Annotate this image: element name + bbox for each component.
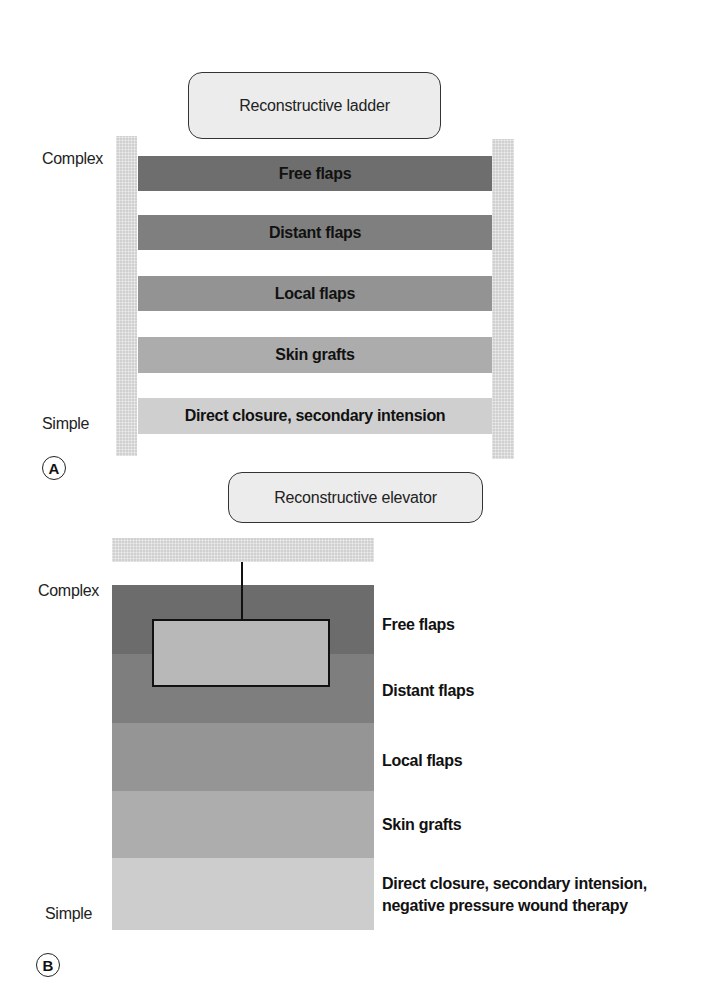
panel-a-label: A (42, 456, 66, 480)
elevator-level-direct-closure (112, 858, 374, 930)
ladder-rung-distant-flaps: Distant flaps (138, 215, 492, 250)
elevator-level-local-flaps (112, 723, 374, 791)
elevator-title: Reconstructive elevator (228, 472, 483, 523)
ladder-rung-skin-grafts: Skin grafts (138, 337, 492, 373)
elevator-complex-label: Complex (38, 582, 99, 600)
rung-label: Free flaps (279, 165, 352, 183)
ladder-rung-direct-closure: Direct closure, secondary intension (138, 398, 492, 434)
elevator-level-skin-grafts (112, 791, 374, 858)
ladder-right-rail (492, 139, 514, 459)
ladder-simple-label: Simple (42, 415, 89, 433)
elevator-label-distant-flaps: Distant flaps (382, 680, 474, 702)
elevator-cable (241, 562, 243, 620)
label-line-2: negative pressure wound therapy (382, 895, 647, 917)
elevator-simple-label: Simple (45, 905, 92, 923)
ladder-complex-label: Complex (42, 150, 103, 168)
elevator-label-local-flaps: Local flaps (382, 750, 462, 772)
elevator-label-skin-grafts: Skin grafts (382, 814, 461, 836)
rung-label: Skin grafts (275, 346, 354, 364)
ladder-rung-free-flaps: Free flaps (138, 156, 492, 191)
rung-label: Direct closure, secondary intension (185, 407, 446, 425)
elevator-label-direct-closure: Direct closure, secondary intension, neg… (382, 873, 647, 917)
ladder-left-rail (116, 136, 137, 456)
ladder-title: Reconstructive ladder (188, 72, 441, 139)
label-line-1: Direct closure, secondary intension, (382, 873, 647, 895)
rung-label: Distant flaps (269, 224, 361, 242)
ladder-rung-local-flaps: Local flaps (138, 276, 492, 311)
elevator-label-free-flaps: Free flaps (382, 614, 455, 636)
elevator-shaft-top (112, 538, 374, 562)
rung-label: Local flaps (275, 285, 355, 303)
elevator-car (152, 619, 330, 687)
panel-b-label: B (36, 953, 60, 977)
